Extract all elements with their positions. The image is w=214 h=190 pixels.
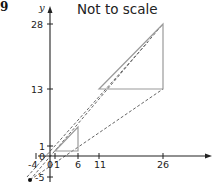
x-tick-6: 6 [75,159,81,170]
enlargement-diagram: y 28 13 1 0 -5 -4 0 1 6 11 26 [0,0,214,190]
x-tick-26: 26 [157,159,169,170]
centre-point [28,178,32,182]
large-triangle [99,24,163,89]
x-tick-11: 11 [94,159,106,170]
axes [38,10,208,182]
y-axis-arrow-icon [48,6,53,13]
y-tick-0: 0 [39,151,45,162]
small-triangle [55,127,78,151]
x-axis-arrow-icon [205,154,212,159]
y-tick-13: 13 [31,84,43,95]
y-tick-28: 28 [31,19,43,30]
y-axis-label: y [38,2,45,13]
dashed-line-to-top-left [27,42,148,177]
x-tick-neg4: -4 [28,159,37,170]
construction-lines [27,24,163,180]
x-tick-0: 0 [47,159,53,170]
y-tick-neg5: -5 [35,172,44,183]
x-tick-1: 1 [54,159,60,170]
